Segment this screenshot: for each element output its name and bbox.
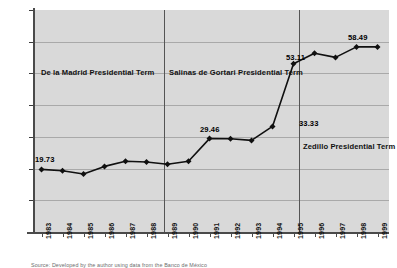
x-tick-1983 — [42, 233, 43, 237]
x-tick-1987 — [126, 233, 127, 237]
x-axis-label-1997: 1997 — [339, 223, 346, 239]
x-axis-label-1994: 1994 — [276, 223, 283, 239]
x-axis-label-1989: 1989 — [171, 223, 178, 239]
x-tick-1998 — [357, 233, 358, 237]
x-axis-label-1996: 1996 — [318, 223, 325, 239]
x-axis-label-1992: 1992 — [234, 223, 241, 239]
data-label-1995: 53.11 — [286, 53, 305, 62]
x-axis-label-1999: 1999 — [381, 223, 388, 239]
source-note: Source: Developed by the author using da… — [31, 262, 207, 268]
x-tick-1984 — [63, 233, 64, 237]
x-tick-1986 — [105, 233, 106, 237]
x-tick-1990 — [189, 233, 190, 237]
x-tick-1996 — [315, 233, 316, 237]
x-axis-label-1983: 1983 — [45, 223, 52, 239]
x-tick-1995 — [294, 233, 295, 237]
x-tick-1991 — [210, 233, 211, 237]
x-tick-1994 — [273, 233, 274, 237]
x-axis-label-1998: 1998 — [360, 223, 367, 239]
x-axis-label-1984: 1984 — [66, 223, 73, 239]
series-markers — [39, 44, 381, 177]
x-axis-label-1990: 1990 — [192, 223, 199, 239]
x-tick-1992 — [231, 233, 232, 237]
x-tick-1989 — [168, 233, 169, 237]
x-tick-1997 — [336, 233, 337, 237]
data-label-1991: 29.46 — [200, 125, 220, 134]
chart-container: 70 60 50 40 30 20 10 De la Madrid Presid… — [0, 0, 397, 268]
x-axis-label-1986: 1986 — [108, 223, 115, 239]
x-tick-1993 — [252, 233, 253, 237]
x-axis-label-1987: 1987 — [129, 223, 136, 239]
x-axis-label-1991: 1991 — [213, 223, 220, 239]
x-axis-label-1985: 1985 — [87, 223, 94, 239]
data-label-1994: 33.33 — [299, 119, 319, 128]
x-axis-label-1993: 1993 — [255, 223, 262, 239]
x-tick-1988 — [147, 233, 148, 237]
x-tick-1999 — [378, 233, 379, 237]
x-axis-label-1995: 1995 — [297, 223, 304, 239]
series-polyline — [42, 47, 378, 174]
data-label-1983: 19.73 — [35, 155, 55, 164]
x-tick-1985 — [84, 233, 85, 237]
x-axis-label-1988: 1988 — [150, 223, 157, 239]
data-label-1998: 58.49 — [348, 33, 368, 42]
